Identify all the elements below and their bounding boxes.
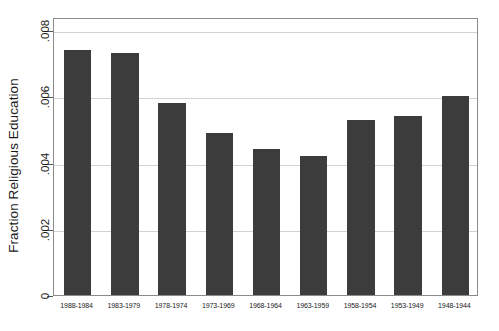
x-tick-label: 1978-1974: [147, 302, 194, 309]
bar: [64, 50, 91, 295]
y-axis-title: Fraction Religious Education: [0, 0, 26, 331]
bar: [300, 156, 327, 295]
bar: [253, 149, 280, 295]
x-tick-label: 1968-1964: [242, 302, 289, 309]
x-tick-label: 1958-1954: [336, 302, 383, 309]
bar: [442, 96, 469, 295]
y-tick-label: .006: [39, 79, 53, 115]
y-tick-label: 0: [39, 278, 53, 314]
bar: [347, 120, 374, 295]
plot-area: [53, 18, 478, 296]
bar-chart: Fraction Religious Education 0.002.004.0…: [0, 0, 499, 331]
bar: [394, 116, 421, 295]
gridline: [54, 32, 477, 33]
bar: [111, 53, 138, 295]
x-tick-label: 1953-1949: [384, 302, 431, 309]
y-tick-label: .008: [39, 13, 53, 49]
y-tick-label: .004: [39, 146, 53, 182]
x-tick-label: 1983-1979: [100, 302, 147, 309]
y-tick-label: .002: [39, 212, 53, 248]
x-tick-label: 1973-1969: [195, 302, 242, 309]
x-tick-label: 1963-1959: [289, 302, 336, 309]
x-tick-label: 1948-1944: [431, 302, 478, 309]
x-tick-label: 1988-1984: [53, 302, 100, 309]
bar: [206, 133, 233, 295]
bar: [158, 103, 185, 295]
